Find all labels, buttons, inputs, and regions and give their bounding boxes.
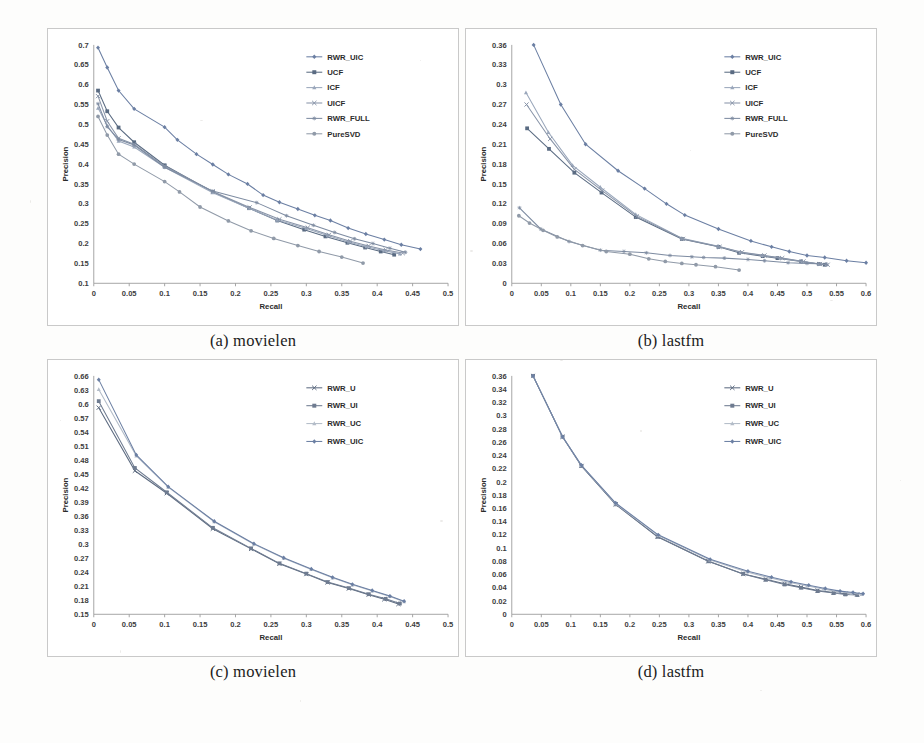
- svg-text:RWR_UC: RWR_UC: [327, 419, 361, 428]
- svg-text:0.51: 0.51: [74, 442, 89, 451]
- svg-text:0.4: 0.4: [78, 160, 89, 169]
- svg-text:Precision: Precision: [479, 146, 488, 181]
- svg-text:0.42: 0.42: [74, 484, 89, 493]
- svg-text:0.5: 0.5: [78, 120, 89, 129]
- svg-text:0.18: 0.18: [492, 491, 507, 500]
- svg-text:0.6: 0.6: [861, 289, 872, 298]
- svg-text:0.25: 0.25: [264, 289, 279, 298]
- svg-text:RWR_UIC: RWR_UIC: [327, 437, 363, 446]
- svg-text:0.32: 0.32: [492, 398, 507, 407]
- svg-text:0.3: 0.3: [301, 289, 312, 298]
- svg-text:0.55: 0.55: [74, 100, 89, 109]
- svg-text:0.05: 0.05: [534, 289, 549, 298]
- svg-text:0.05: 0.05: [122, 620, 137, 629]
- svg-text:0.2: 0.2: [625, 620, 636, 629]
- svg-text:RWR_FULL: RWR_FULL: [327, 114, 370, 123]
- svg-text:Recall: Recall: [677, 633, 700, 642]
- svg-text:0.04: 0.04: [492, 583, 508, 592]
- svg-text:0.15: 0.15: [74, 610, 89, 619]
- figure-row-top: 0.10.150.20.250.30.350.40.450.50.550.60.…: [0, 28, 924, 359]
- svg-text:0.55: 0.55: [829, 289, 844, 298]
- svg-text:0.18: 0.18: [492, 160, 507, 169]
- svg-text:RWR_UI: RWR_UI: [327, 401, 357, 410]
- svg-text:0.1: 0.1: [496, 544, 507, 553]
- svg-text:0.2: 0.2: [230, 289, 241, 298]
- svg-text:0.35: 0.35: [334, 289, 349, 298]
- svg-text:0.4: 0.4: [743, 289, 754, 298]
- figure-cell-b: 00.030.060.090.120.150.180.210.240.270.3…: [465, 28, 877, 359]
- figure-cell-c: 0.150.180.210.240.270.30.330.360.390.420…: [47, 359, 459, 690]
- svg-text:0.45: 0.45: [405, 620, 420, 629]
- svg-text:0.3: 0.3: [78, 200, 89, 209]
- svg-text:0.15: 0.15: [74, 259, 89, 268]
- svg-text:0.24: 0.24: [492, 120, 508, 129]
- figure-cell-d: 00.020.040.060.080.10.120.140.160.180.20…: [465, 359, 877, 690]
- svg-text:0.3: 0.3: [496, 80, 507, 89]
- svg-text:0.16: 0.16: [492, 504, 507, 513]
- svg-text:RWR_UIC: RWR_UIC: [745, 437, 781, 446]
- svg-text:RWR_U: RWR_U: [745, 384, 774, 393]
- svg-text:0.5: 0.5: [443, 620, 454, 629]
- svg-text:0.33: 0.33: [74, 526, 89, 535]
- svg-text:0.2: 0.2: [496, 478, 507, 487]
- scan-speckle: [760, 690, 762, 691]
- svg-text:0.36: 0.36: [492, 41, 507, 50]
- svg-text:0.28: 0.28: [492, 425, 507, 434]
- svg-text:ICF: ICF: [327, 83, 340, 92]
- svg-text:0.1: 0.1: [566, 620, 577, 629]
- svg-text:0: 0: [503, 279, 507, 288]
- svg-text:Precision: Precision: [479, 477, 488, 512]
- svg-text:0.05: 0.05: [534, 620, 549, 629]
- svg-text:UICF: UICF: [745, 99, 763, 108]
- svg-text:0.08: 0.08: [492, 557, 507, 566]
- svg-text:0.4: 0.4: [372, 620, 383, 629]
- svg-text:PureSVD: PureSVD: [327, 130, 361, 139]
- svg-text:0.12: 0.12: [492, 200, 507, 209]
- svg-text:0.5: 0.5: [802, 620, 813, 629]
- svg-text:0.25: 0.25: [652, 620, 667, 629]
- figure-page: 0.10.150.20.250.30.350.40.450.50.550.60.…: [0, 0, 924, 743]
- caption-d: (d) lastfm: [638, 662, 705, 682]
- svg-text:0: 0: [510, 620, 514, 629]
- caption-c: (c) movielen: [210, 662, 296, 682]
- svg-text:0.63: 0.63: [74, 386, 89, 395]
- svg-text:0.3: 0.3: [684, 289, 695, 298]
- svg-text:0.06: 0.06: [492, 239, 507, 248]
- svg-text:PureSVD: PureSVD: [745, 130, 779, 139]
- svg-text:0.48: 0.48: [74, 456, 89, 465]
- svg-text:0.3: 0.3: [684, 620, 695, 629]
- svg-text:RWR_FULL: RWR_FULL: [745, 114, 788, 123]
- svg-text:0.5: 0.5: [443, 289, 454, 298]
- svg-text:0.21: 0.21: [74, 582, 89, 591]
- svg-text:0.2: 0.2: [78, 239, 89, 248]
- svg-text:UCF: UCF: [327, 68, 343, 77]
- svg-text:0.15: 0.15: [193, 620, 208, 629]
- svg-text:Precision: Precision: [61, 477, 70, 512]
- svg-text:0.27: 0.27: [492, 100, 507, 109]
- svg-text:0.45: 0.45: [74, 140, 89, 149]
- svg-text:Recall: Recall: [259, 633, 282, 642]
- svg-text:0: 0: [510, 289, 514, 298]
- svg-text:0.66: 0.66: [74, 372, 89, 381]
- figure-row-bottom: 0.150.180.210.240.270.30.330.360.390.420…: [0, 359, 924, 690]
- svg-text:0.3: 0.3: [78, 540, 89, 549]
- caption-a: (a) movielen: [210, 331, 296, 351]
- svg-text:Recall: Recall: [677, 302, 700, 311]
- svg-text:0.26: 0.26: [492, 438, 507, 447]
- svg-text:0.14: 0.14: [492, 517, 508, 526]
- svg-text:0.25: 0.25: [264, 620, 279, 629]
- svg-text:0.35: 0.35: [334, 620, 349, 629]
- chart-panel-d: 00.020.040.060.080.10.120.140.160.180.20…: [465, 359, 877, 657]
- svg-text:0.2: 0.2: [625, 289, 636, 298]
- svg-text:0.57: 0.57: [74, 414, 89, 423]
- svg-text:0.6: 0.6: [78, 80, 89, 89]
- svg-text:0.4: 0.4: [372, 289, 383, 298]
- svg-text:0.54: 0.54: [74, 428, 90, 437]
- svg-text:UICF: UICF: [327, 99, 345, 108]
- svg-text:0.6: 0.6: [861, 620, 872, 629]
- svg-text:0.35: 0.35: [74, 180, 89, 189]
- svg-text:RWR_UIC: RWR_UIC: [745, 53, 781, 62]
- svg-text:0.5: 0.5: [802, 289, 813, 298]
- svg-text:0.4: 0.4: [743, 620, 754, 629]
- svg-text:0.35: 0.35: [711, 289, 726, 298]
